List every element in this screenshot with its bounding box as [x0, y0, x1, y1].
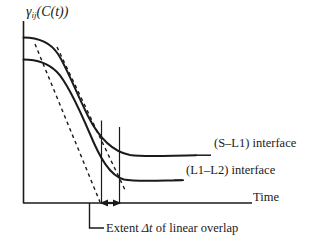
- caption-leader-line: [90, 203, 105, 228]
- curve-l1-l2: [24, 60, 183, 181]
- extent-caption-suffix: of linear overlap: [153, 221, 239, 235]
- y-axis-label: γij(C(t)): [26, 4, 68, 20]
- x-axis-label: Time: [253, 190, 279, 205]
- extent-caption-symbol: Δt: [142, 221, 153, 235]
- y-axis-label-argument: (C(t)): [37, 4, 69, 19]
- extent-caption: Extent Δt of linear overlap: [106, 221, 238, 236]
- extent-caption-prefix: Extent: [106, 221, 142, 235]
- linear-segment-upper: [47, 57, 190, 206]
- curve-s-l1: [24, 38, 197, 157]
- curve-label-s-l1: (S–L1) interface: [214, 136, 296, 151]
- diagram-canvas: [0, 0, 335, 249]
- tangent-upper-dashed: [57, 47, 126, 192]
- curve-label-l1-l2: (L1–L2) interface: [186, 163, 275, 178]
